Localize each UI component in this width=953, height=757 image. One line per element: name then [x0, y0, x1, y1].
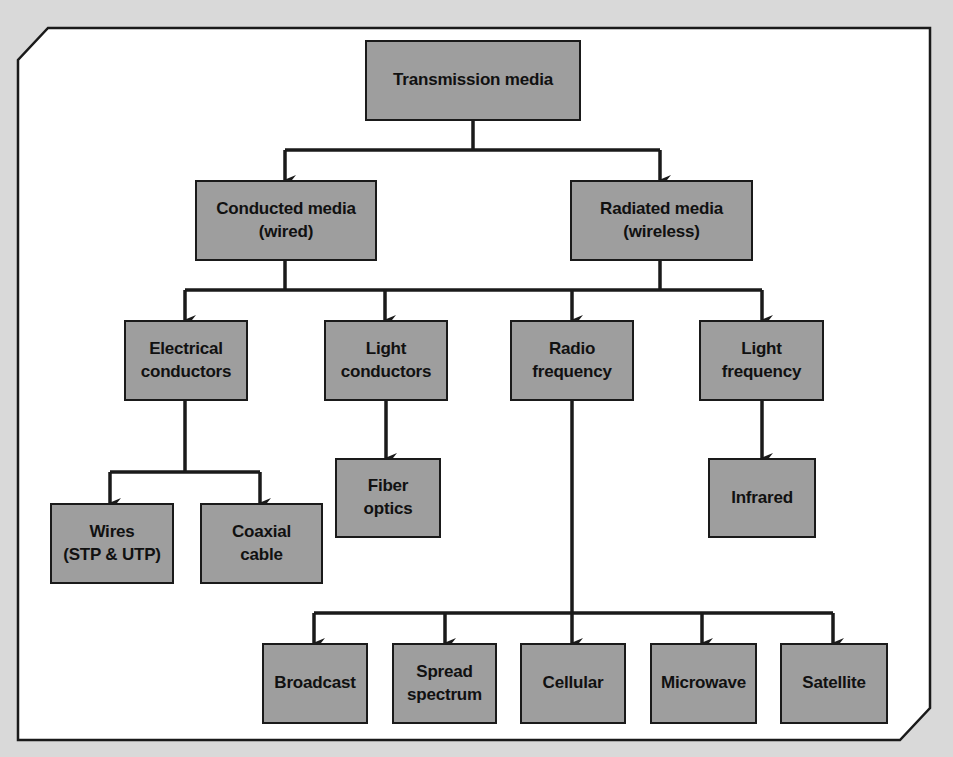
node-light-frequency: Light frequency [699, 320, 824, 401]
node-broadcast: Broadcast [262, 643, 368, 724]
node-microwave: Microwave [650, 643, 757, 724]
node-label: Radiated media (wireless) [600, 198, 723, 244]
node-wires: Wires (STP & UTP) [50, 503, 174, 584]
node-label: Coaxial cable [232, 521, 291, 567]
node-label: Electrical conductors [141, 338, 232, 384]
node-transmission-media: Transmission media [365, 40, 581, 121]
node-label: Satellite [802, 672, 865, 695]
node-coaxial-cable: Coaxial cable [200, 503, 323, 584]
node-label: Infrared [731, 487, 793, 510]
node-spread-spectrum: Spread spectrum [392, 643, 497, 724]
node-label: Fiber optics [364, 475, 413, 521]
node-label: Radio frequency [532, 338, 611, 384]
node-light-conductors: Light conductors [324, 320, 448, 401]
node-label: Spread spectrum [407, 661, 482, 707]
node-label: Wires (STP & UTP) [63, 521, 161, 567]
node-label: Light frequency [722, 338, 801, 384]
node-radiated-media: Radiated media (wireless) [570, 180, 753, 261]
node-label: Microwave [661, 672, 746, 695]
node-label: Broadcast [274, 672, 355, 695]
node-satellite: Satellite [780, 643, 888, 724]
node-electrical-conductors: Electrical conductors [124, 320, 248, 401]
node-cellular: Cellular [520, 643, 626, 724]
node-fiber-optics: Fiber optics [335, 458, 441, 538]
node-conducted-media: Conducted media (wired) [195, 180, 377, 261]
node-infrared: Infrared [708, 458, 816, 538]
node-label: Transmission media [393, 69, 553, 92]
node-label: Conducted media (wired) [216, 198, 356, 244]
node-label: Light conductors [341, 338, 432, 384]
node-label: Cellular [543, 672, 604, 695]
node-radio-frequency: Radio frequency [510, 320, 634, 401]
